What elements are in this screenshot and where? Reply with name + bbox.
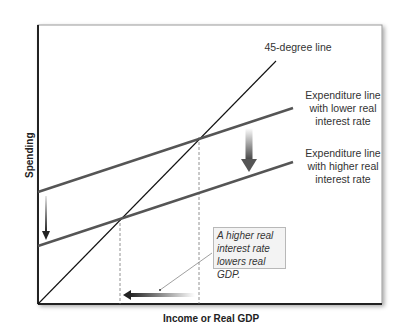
forty-five-degree-label: 45-degree line — [258, 41, 338, 54]
lower-line-label: Expenditure line with higher real intere… — [293, 147, 393, 186]
upper-line-label-1: Expenditure line — [293, 89, 393, 102]
upper-line-label-3: interest rate — [293, 115, 393, 128]
lower-line-label-1: Expenditure line — [293, 147, 393, 160]
lower-line-label-2: with higher real — [293, 160, 393, 173]
y-axis-title: Spending — [24, 132, 35, 178]
annotation-line-2: interest rate — [217, 242, 285, 255]
lower-line-label-3: interest rate — [293, 173, 393, 186]
annotation-line-1: A higher real — [217, 229, 285, 242]
x-axis-title: Income or Real GDP — [163, 313, 259, 324]
upper-line-label-2: with lower real — [293, 102, 393, 115]
annotation-box: A higher real interest rate lowers real … — [213, 227, 286, 269]
upper-line-label: Expenditure line with lower real interes… — [293, 89, 393, 128]
annotation-line-3: lowers real GDP. — [217, 255, 285, 281]
forty-five-degree-label-text: 45-degree line — [264, 41, 331, 53]
